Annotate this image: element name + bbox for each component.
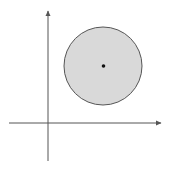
disk-center-point <box>102 64 106 68</box>
diagram-canvas <box>0 0 169 171</box>
